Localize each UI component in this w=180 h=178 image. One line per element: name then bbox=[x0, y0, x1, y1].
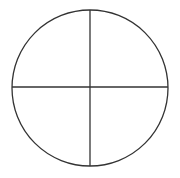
quadrant-circle-diagram bbox=[0, 0, 180, 178]
